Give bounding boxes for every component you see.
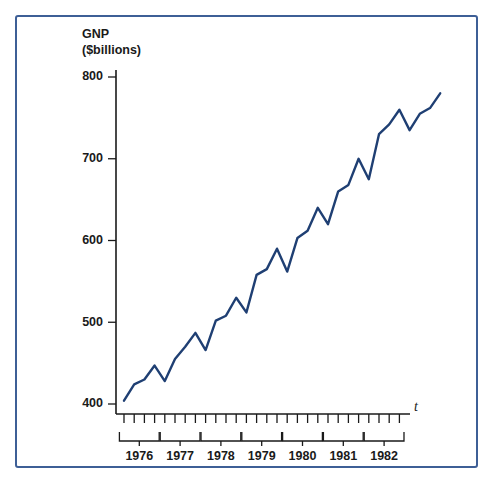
x-year-label: 1982 bbox=[370, 449, 398, 463]
y-axis-title-line1: GNP bbox=[82, 27, 109, 41]
figure-container: GNP ($billions) 400500600700800 t 197619… bbox=[0, 0, 495, 487]
y-axis-title-line2: ($billions) bbox=[82, 43, 141, 57]
y-axis-title: GNP ($billions) bbox=[82, 27, 141, 57]
x-axis-variable-label: t bbox=[414, 399, 419, 414]
y-tick-label: 800 bbox=[82, 69, 103, 83]
y-tick-label: 500 bbox=[82, 315, 103, 329]
y-tick-label: 600 bbox=[82, 233, 103, 247]
year-brace bbox=[160, 432, 200, 446]
year-brace bbox=[242, 432, 282, 446]
year-brace bbox=[364, 432, 404, 446]
gnp-line-chart: GNP ($billions) 400500600700800 t 197619… bbox=[0, 0, 495, 487]
x-year-label: 1977 bbox=[166, 449, 194, 463]
year-brace bbox=[119, 432, 159, 446]
x-year-label: 1976 bbox=[125, 449, 153, 463]
x-year-label: 1979 bbox=[248, 449, 276, 463]
year-brace bbox=[283, 432, 323, 446]
y-tick-label: 700 bbox=[82, 151, 103, 165]
x-year-label: 1981 bbox=[329, 449, 357, 463]
x-axis-year-labels: 1976197719781979198019811982 bbox=[125, 449, 398, 463]
x-year-label: 1978 bbox=[207, 449, 235, 463]
x-axis-year-braces bbox=[119, 432, 404, 446]
year-brace bbox=[323, 432, 363, 446]
x-axis-ticks bbox=[124, 414, 399, 423]
year-brace bbox=[201, 432, 241, 446]
y-axis-ticks: 400500600700800 bbox=[82, 69, 116, 410]
gnp-data-line bbox=[124, 93, 440, 400]
y-tick-label: 400 bbox=[82, 396, 103, 410]
x-year-label: 1980 bbox=[289, 449, 317, 463]
